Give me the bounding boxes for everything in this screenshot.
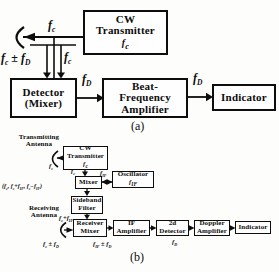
if-amplifier-box: IF Amplifier [113,220,150,236]
box-label-line: Transmitter [67,153,104,161]
cw-transmitter-box-b: CW Transmitter fc [63,146,108,170]
box-label-line: (Mixer) [25,98,62,110]
cw-transmitter-box: CW Transmitter fc [83,10,168,55]
second-detector-box: 2d Detector [156,220,189,236]
box-label-line: Amplifier [121,104,169,116]
transmitting-antenna-label: Transmitting Antenna [16,134,62,148]
box-label-line: Amplifier [197,228,227,236]
antenna-label-line: Antenna [16,141,62,148]
fc-plus-minus-fd-label-b: fc ± fD [43,240,59,249]
antenna-label-line: Antenna [26,212,62,219]
fd-amplifier-out-label: fD [193,71,202,87]
box-label-line: Mixer [79,179,98,187]
box-frequency-label: fc [122,37,129,52]
fc-radiated-label: fc [49,162,53,171]
fc-to-mixer-label: fc [71,167,75,176]
oscillator-box: Oscillator fIF [112,171,154,188]
fd-detector-out-label: fD [82,72,91,88]
box-label-line: Filter [78,205,95,213]
fif-plus-minus-fd-label: fIF ± fD [93,240,111,249]
fc-plus-minus-fd-label: fc ± fD [1,51,30,67]
fc-reference-label: fc [64,50,71,66]
box-label-line: Mixer [81,228,100,236]
box-label-line: Detector [159,228,185,236]
transmitting-antenna-icon [53,151,59,167]
arrowhead-left-icon [24,33,35,41]
sideband-filter-box: Sideband Filter [71,196,103,214]
box-frequency-label: fIF [129,178,137,188]
mixer-output-label: (fc, fc+fIF, fc−fIF) [2,183,42,191]
caption-a: (a) [131,119,144,134]
fif-oscillator-label: fIF [100,169,106,178]
box-label-line: Amplifier [116,228,146,236]
box-label-line: Oscillator [118,171,149,179]
doppler-amplifier-box: Doppler Amplifier [194,220,230,236]
fc-to-antenna-label: fc [48,18,55,34]
box-label-line: Indicator [239,224,268,232]
fd-detected-label: fD [172,238,177,247]
receiving-antenna-label: Receiving Antenna [26,205,62,219]
arrowhead-left-icon [102,179,108,185]
receiver-mixer-box: Receiver Mixer [73,219,107,237]
indicator-box-b: Indicator [235,221,271,234]
box-label-line: Indicator [221,92,267,104]
radar-block-diagram-figure: CW Transmitter fc Detector (Mixer) Beat-… [0,0,279,272]
fc-plus-fif-label: fc+fIF [59,214,73,223]
mixer-box: Mixer [75,176,102,189]
indicator-box: Indicator [212,84,276,111]
detector-mixer-box: Detector (Mixer) [10,78,77,118]
antenna-icon [17,27,25,48]
caption-b: (b) [130,250,144,265]
box-frequency-label: fc [83,160,88,170]
box-label-line: Transmitter [96,25,155,37]
beat-frequency-amplifier-box: Beat- Frequency Amplifier [102,78,188,118]
